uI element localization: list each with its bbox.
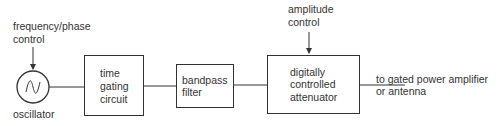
diagram-svg: frequency/phase control oscillator time …: [0, 0, 498, 126]
attenuator-label-3: attenuator: [290, 91, 338, 103]
time-gating-label-1: time: [100, 67, 120, 79]
attenuator-label-1: digitally: [290, 66, 326, 78]
output-label-2: or antenna: [376, 85, 426, 97]
amplitude-control-label-2: control: [288, 16, 320, 28]
attenuator-label-2: controlled: [290, 78, 336, 90]
oscillator-label: oscillator: [13, 108, 55, 120]
bandpass-label-2: filter: [182, 86, 202, 98]
freq-control-label-2: control: [13, 33, 45, 45]
block-diagram: frequency/phase control oscillator time …: [0, 0, 498, 126]
freq-control-label-1: frequency/phase: [13, 20, 91, 32]
time-gating-label-2: gating: [100, 80, 129, 92]
time-gating-label-3: circuit: [100, 93, 128, 105]
output-label-1: to gated power amplifier: [376, 73, 489, 85]
sine-wave-icon: [26, 81, 40, 93]
amplitude-control-label-1: amplitude: [288, 3, 334, 15]
bandpass-label-1: bandpass: [182, 74, 228, 86]
